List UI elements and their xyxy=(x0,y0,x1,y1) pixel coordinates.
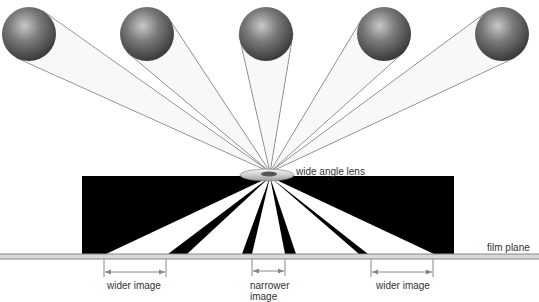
sphere-object xyxy=(239,7,293,61)
film-plane-label: film plane xyxy=(487,242,530,253)
wide-angle-lens-icon xyxy=(240,169,294,181)
arrow-left-icon xyxy=(105,270,111,275)
arrow-right-icon xyxy=(278,269,284,274)
arrow-left-icon xyxy=(372,270,378,275)
arrow-right-icon xyxy=(426,270,432,275)
film-plane-band xyxy=(0,254,539,259)
dimension-marker xyxy=(104,259,166,277)
narrower-image-label-line2: image xyxy=(250,291,277,302)
wider-image-left-label: wider image xyxy=(107,280,161,291)
lens-center xyxy=(261,172,277,177)
lens-label: wide angle lens xyxy=(296,166,365,177)
image-width-dimensions xyxy=(104,259,433,277)
wide-angle-lens-diagram: wide angle lens film plane wider image n… xyxy=(0,0,539,302)
sphere-object xyxy=(2,7,56,61)
sphere-object xyxy=(120,7,174,61)
dimension-marker xyxy=(371,259,433,277)
arrow-left-icon xyxy=(253,269,259,274)
dimension-marker xyxy=(252,259,285,276)
sphere-object xyxy=(357,7,411,61)
diagram-canvas xyxy=(0,0,539,302)
arrow-right-icon xyxy=(159,270,165,275)
camera-body xyxy=(82,176,454,254)
wider-image-right-label: wider image xyxy=(376,280,430,291)
narrower-image-label-line1: narrower xyxy=(250,280,289,291)
film-plane-line xyxy=(0,254,539,259)
sphere-object xyxy=(475,7,529,61)
